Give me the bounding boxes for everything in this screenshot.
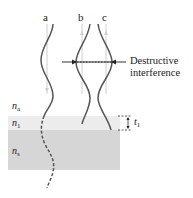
annotation-line-2: interference [130,67,180,79]
destructive-interference-label: Destructive interference [130,55,180,79]
thickness-label: t1 [134,117,140,129]
thin-film-interference-diagram: a b c Destructive interference na n1 ns … [0,0,193,198]
layer-label-ambient: na [12,101,20,113]
diagram-canvas [0,0,193,198]
wave-c [98,24,112,130]
destructive-interference-marker [62,60,126,65]
wave-label-c: c [102,12,107,23]
thickness-subscript: 1 [137,121,141,129]
layer-subscript: 1 [17,122,21,130]
substrate-layer [8,130,120,170]
annotation-line-1: Destructive [130,55,180,67]
wave-label-a: a [43,12,48,23]
layer-label-substrate: ns [12,146,20,158]
layer-subscript: s [17,150,20,158]
wave-b [76,24,90,124]
layer-subscript: a [17,105,20,113]
layer-label-film: n1 [12,118,21,130]
wave-label-b: b [78,12,84,23]
thickness-marker [118,116,132,130]
film-layer [8,116,120,130]
